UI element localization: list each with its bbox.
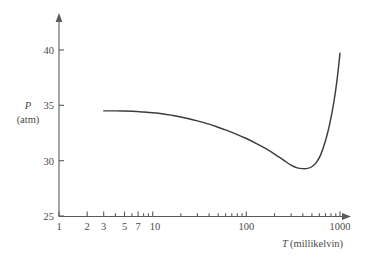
x-tick-label: 5 [122,221,127,232]
chart-figure: 40 35 30 25 [0,0,365,263]
pressure-temperature-plot: 40 35 30 25 [0,0,365,263]
x-axis-minor-ticks [115,213,335,216]
y-tick-label: 30 [44,156,55,167]
x-tick-label: 100 [238,221,254,232]
y-axis-title-symbol: P [24,100,32,111]
y-tick-label: 35 [44,100,55,111]
y-axis-arrow-icon [56,13,63,22]
x-axis-title-symbol: T [282,238,289,249]
y-tick-label: 40 [44,45,55,56]
x-tick-label: 1000 [330,221,351,232]
x-axis-tick-labels: 1 2 3 5 7 10 100 1000 [56,221,350,232]
y-tick-label: 25 [44,211,55,222]
x-tick-label: 3 [101,221,106,232]
x-tick-label: 10 [150,221,161,232]
y-axis-tick-labels: 40 35 30 25 [44,45,55,222]
y-axis-ticks [59,50,64,216]
x-axis-major-ticks [59,212,340,217]
y-axis-title-unit: (atm) [17,114,40,126]
x-tick-label: 7 [135,221,140,232]
x-axis-arrow-icon [342,213,351,220]
x-axis-title-unit: (millikelvin) [290,238,344,250]
x-tick-label: 1 [56,221,61,232]
x-tick-label: 2 [85,221,90,232]
x-axis-title: T (millikelvin) [282,238,344,250]
melting-curve-line [104,53,340,168]
y-axis-title: P (atm) [17,100,40,125]
